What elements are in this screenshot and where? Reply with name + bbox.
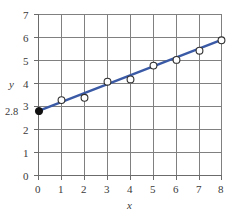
data-point-marker	[127, 76, 134, 83]
y-tick-label-5: 5	[23, 56, 29, 67]
data-point-marker	[173, 57, 180, 64]
data-point-marker	[58, 97, 65, 104]
y-tick-label-1: 1	[23, 148, 29, 159]
x-axis-ticks	[39, 176, 222, 180]
y-tick-label-4: 4	[23, 79, 29, 90]
y-tick-label-2: 2	[23, 125, 29, 136]
x-tick-label-3: 3	[104, 184, 110, 195]
data-point-marker	[104, 78, 111, 85]
y-intercept-annotation: 2.8	[5, 107, 18, 118]
scatter-plot-figure: 7 6 5 4 3 2 1 0 2.8 0 1 2 3 4 5 6 7 8 y …	[0, 0, 236, 216]
x-tick-label-2: 2	[81, 184, 87, 195]
data-point-marker	[81, 94, 88, 101]
y-intercept-point	[35, 108, 42, 115]
x-tick-label-4: 4	[127, 184, 133, 195]
x-tick-label-1: 1	[58, 184, 64, 195]
data-point-marker	[196, 47, 203, 54]
x-tick-label-5: 5	[150, 184, 156, 195]
y-tick-label-0: 0	[23, 171, 29, 182]
x-tick-label-0: 0	[35, 184, 41, 195]
x-tick-label-6: 6	[173, 184, 179, 195]
y-tick-label-3: 3	[23, 101, 29, 112]
x-tick-label-8: 8	[218, 184, 224, 195]
x-axis-label: x	[127, 200, 132, 211]
y-axis-label: y	[9, 79, 14, 90]
y-tick-label-6: 6	[23, 33, 29, 44]
x-tick-label-7: 7	[196, 184, 202, 195]
y-axis-ticks	[34, 15, 38, 176]
data-point-marker	[218, 37, 225, 44]
data-point-marker	[150, 62, 157, 69]
y-tick-label-7: 7	[23, 10, 29, 21]
